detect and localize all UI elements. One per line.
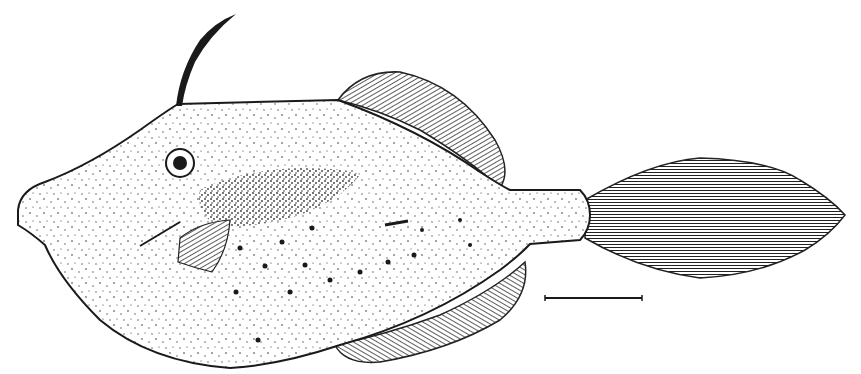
dorsal-spine	[176, 14, 236, 106]
fish-illustration	[0, 0, 861, 374]
figure-canvas	[0, 0, 861, 374]
scale-bar	[545, 295, 642, 301]
caudal-fin	[585, 158, 845, 278]
fish-body	[18, 100, 590, 368]
eye-pupil	[173, 156, 187, 170]
